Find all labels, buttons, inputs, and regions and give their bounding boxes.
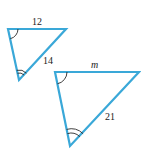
- large-triangle-outline: [55, 72, 139, 146]
- large-triangle: m 21: [55, 59, 139, 146]
- small-top-left-angle-single-arc-icon: [10, 29, 18, 39]
- small-triangle: 12 14: [8, 16, 66, 80]
- small-top-side-label: 12: [32, 16, 42, 27]
- small-right-side-label: 14: [43, 55, 53, 66]
- large-top-side-label: m: [91, 59, 98, 70]
- similar-triangles-diagram: 12 14 m 21: [0, 0, 141, 152]
- large-top-left-angle-single-arc-icon: [57, 72, 67, 84]
- large-right-side-label: 21: [105, 111, 115, 122]
